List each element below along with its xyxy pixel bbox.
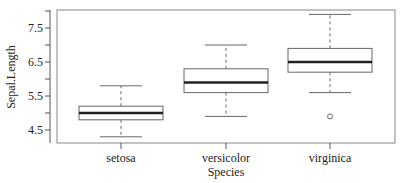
- boxes: [79, 14, 372, 136]
- y-tick-label: 4.5: [28, 123, 43, 137]
- x-tick-label: setosa: [106, 151, 136, 165]
- box-versicolor: [184, 45, 268, 116]
- x-axis-label: Species: [208, 165, 245, 179]
- x-tick-label: virginica: [309, 151, 352, 165]
- y-axis-label: Sepal.Length: [4, 45, 18, 109]
- x-tick-label: versicolor: [202, 151, 250, 165]
- y-tick-label: 6.5: [28, 55, 43, 69]
- outlier-point: [328, 114, 333, 119]
- y-tick-label: 7.5: [28, 21, 43, 35]
- box-setosa: [79, 86, 163, 137]
- iqr-box: [184, 69, 268, 93]
- boxplot-chart: 4.55.56.57.5 setosaversicolorvirginica S…: [0, 0, 410, 183]
- y-axis: 4.55.56.57.5: [28, 10, 50, 143]
- x-axis: setosaversicolorvirginica: [106, 143, 352, 165]
- iqr-box: [288, 48, 372, 72]
- box-virginica: [288, 14, 372, 119]
- y-tick-label: 5.5: [28, 89, 43, 103]
